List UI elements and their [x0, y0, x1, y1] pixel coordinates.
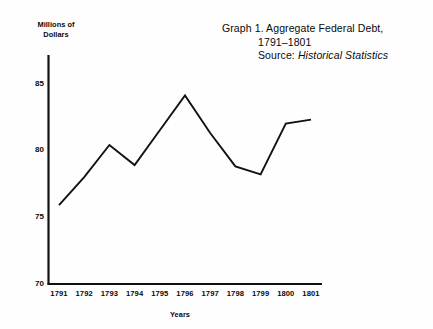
chart-title-line-1: Graph 1. Aggregate Federal Debt,	[222, 22, 427, 36]
y-tick-label: 75	[18, 212, 44, 221]
chart-page: Millions of Dollars Graph 1. Aggregate F…	[0, 0, 433, 329]
data-series-line	[59, 96, 311, 206]
chart-title-line-2: 1791–1801	[258, 36, 427, 50]
chart-source-value: Historical Statistics	[298, 49, 388, 61]
y-tick-label: 80	[18, 145, 44, 154]
x-tick-label: 1801	[296, 289, 326, 298]
chart-source-line: Source: Historical Statistics	[258, 49, 427, 63]
chart-title-block: Graph 1. Aggregate Federal Debt, 1791–18…	[222, 22, 427, 63]
chart-source-label: Source:	[258, 49, 298, 61]
y-axis-title: Millions of Dollars	[19, 20, 93, 40]
y-axis-title-line-2: Dollars	[19, 30, 93, 40]
y-axis-title-line-1: Millions of	[19, 20, 93, 30]
y-tick-label: 85	[18, 79, 44, 88]
x-axis-title: Years	[140, 310, 220, 319]
y-tick-label: 70	[18, 279, 44, 288]
